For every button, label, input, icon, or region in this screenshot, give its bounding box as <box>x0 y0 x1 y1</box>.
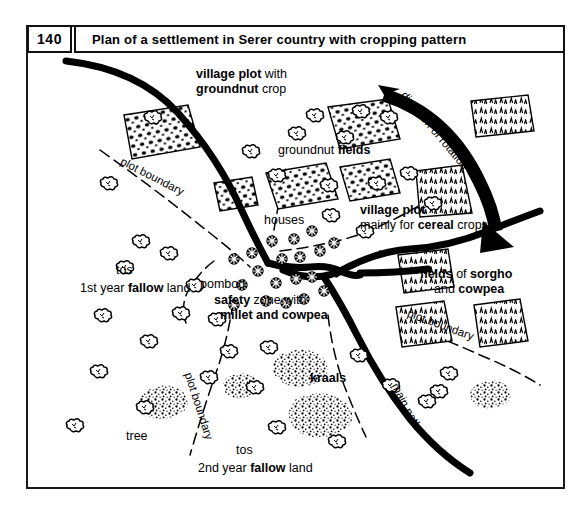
cereal-crops-post: crops <box>454 218 488 232</box>
village-plot-cereal-bold: village plot <box>360 203 425 217</box>
fields-of-mid: of <box>453 267 470 281</box>
label-kraals: kraals <box>310 371 346 386</box>
figure-title-bar: Plan of a settlement in Serer country wi… <box>74 25 565 53</box>
groundnut-fields-bold: fields <box>338 143 371 157</box>
label-safety-zone: safety zone with millet and cowpea <box>214 293 328 323</box>
fallow-second-pre: 2nd year <box>198 461 250 475</box>
figure-number-box: 140 <box>27 25 72 53</box>
label-tos-first: tos <box>116 263 133 278</box>
millet-cowpea-bold: millet and cowpea <box>220 308 328 322</box>
sorgho-bold: sorgho <box>470 267 512 281</box>
label-village-plot-groundnut: village plot with groundnut crop <box>196 67 287 97</box>
figure-title: Plan of a settlement in Serer country wi… <box>76 32 466 47</box>
cereal-crops-bold: cereal <box>418 218 454 232</box>
fallow-second-post: land <box>286 461 313 475</box>
label-tos-second: tos <box>236 443 253 458</box>
figure-140: 140 Plan of a settlement in Serer countr… <box>0 0 588 515</box>
groundnut-crop-bold: groundnut <box>196 82 258 96</box>
label-fields-of-sorgho: fields of sorgho and cowpea <box>420 267 512 297</box>
label-2nd-year-fallow-land: 2nd year fallow land <box>198 461 313 476</box>
cowpea-bold: cowpea <box>458 282 504 296</box>
fallow-first-pre: 1st year <box>80 281 128 295</box>
safety-rest: zone with <box>250 293 306 307</box>
label-1st-year-fallow-land: 1st year fallow land <box>80 281 190 296</box>
fields-bold: fields <box>420 267 453 281</box>
groundnut-fields-pre: groundnut <box>278 143 338 157</box>
label-houses: houses <box>264 213 304 228</box>
cereal-crops-pre: mainly for <box>360 218 418 232</box>
fallow-first-post: land <box>163 281 190 295</box>
fallow-second-bold: fallow <box>250 461 285 475</box>
label-tree: tree <box>126 429 148 444</box>
groundnut-crop-rest: crop <box>258 82 286 96</box>
village-plot-groundnut-bold: village plot <box>196 67 261 81</box>
safety-bold: safety <box>214 293 250 307</box>
figure-number: 140 <box>37 31 62 47</box>
map-canvas: village plot with groundnut crop groundn… <box>28 55 563 487</box>
village-plot-groundnut-rest: with <box>261 67 287 81</box>
label-groundnut-fields: groundnut fields <box>278 143 370 158</box>
cowpea-pre: and <box>434 282 458 296</box>
fallow-first-bold: fallow <box>128 281 163 295</box>
label-village-plot-cereal: village plot mainly for cereal crops <box>360 203 488 233</box>
label-pombod: pombod <box>200 277 245 292</box>
